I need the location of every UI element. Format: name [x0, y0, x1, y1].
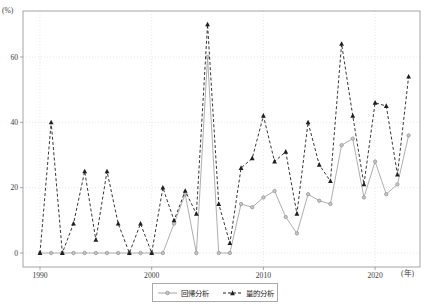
data-point-triangle: [395, 172, 400, 177]
data-point-circle: [116, 251, 119, 254]
y-tick-label: 40: [10, 118, 18, 127]
regression-line-swatch-icon: [157, 289, 178, 297]
data-point-circle: [396, 183, 399, 186]
data-point-circle: [340, 143, 343, 146]
data-point-triangle: [306, 120, 311, 125]
data-point-triangle: [406, 74, 411, 79]
data-point-triangle: [272, 159, 277, 164]
data-point-triangle: [250, 156, 255, 161]
legend-item-regression: 回帰分析: [157, 287, 209, 298]
chart-svg: 02040601990200020102020: [0, 0, 430, 308]
data-point-triangle: [183, 188, 188, 193]
data-point-circle: [373, 160, 376, 163]
data-point-triangle: [362, 182, 367, 187]
data-point-triangle: [194, 211, 199, 216]
data-point-circle: [306, 192, 309, 195]
data-point-triangle: [205, 22, 210, 27]
data-point-triangle: [295, 211, 300, 216]
data-point-triangle: [160, 185, 165, 190]
data-point-circle: [195, 251, 198, 254]
data-point-circle: [161, 251, 164, 254]
data-point-triangle: [116, 221, 121, 226]
data-point-triangle: [328, 178, 333, 183]
data-point-circle: [94, 251, 97, 254]
plot-frame: [23, 11, 420, 267]
data-point-circle: [139, 251, 142, 254]
y-tick-label: 60: [10, 53, 18, 62]
data-point-circle: [262, 196, 265, 199]
data-point-triangle: [373, 100, 378, 105]
data-point-circle: [284, 215, 287, 218]
quantitative-line-swatch-icon: [222, 289, 243, 297]
data-point-circle: [295, 232, 298, 235]
data-point-circle: [83, 251, 86, 254]
data-point-triangle: [216, 201, 221, 206]
data-point-triangle: [317, 162, 322, 167]
x-tick-label: 2000: [144, 271, 159, 280]
legend-label-quantitative: 量的分析: [246, 287, 274, 298]
x-axis-unit-label: (年): [401, 270, 414, 278]
data-point-triangle: [93, 237, 98, 242]
y-tick-label: 0: [14, 249, 18, 258]
data-point-circle: [72, 251, 75, 254]
data-point-triangle: [283, 149, 288, 154]
data-point-triangle: [71, 221, 76, 226]
data-point-triangle: [339, 41, 344, 46]
data-point-circle: [239, 202, 242, 205]
data-point-triangle: [138, 221, 143, 226]
data-point-circle: [49, 251, 52, 254]
y-tick-label: 20: [10, 183, 18, 192]
data-point-triangle: [82, 169, 87, 174]
data-point-triangle: [49, 120, 54, 125]
data-point-circle: [251, 206, 254, 209]
data-point-circle: [228, 251, 231, 254]
data-point-circle: [105, 251, 108, 254]
data-point-triangle: [261, 113, 266, 118]
data-point-circle: [329, 202, 332, 205]
x-tick-label: 2010: [256, 271, 271, 280]
data-point-circle: [407, 134, 410, 137]
x-tick-label: 1990: [32, 271, 47, 280]
data-point-circle: [351, 137, 354, 140]
data-point-triangle: [384, 103, 389, 108]
data-point-circle: [206, 55, 209, 58]
data-point-triangle: [227, 240, 232, 245]
chart-container: 02040601990200020102020 (%) (年) 回帰分析 量的分…: [0, 0, 430, 308]
data-point-circle: [217, 251, 220, 254]
data-point-triangle: [350, 113, 355, 118]
data-point-circle: [318, 199, 321, 202]
legend: 回帰分析 量的分析: [152, 283, 278, 302]
y-axis-unit-label: (%): [2, 7, 13, 15]
x-tick-label: 2020: [368, 271, 383, 280]
data-point-circle: [362, 196, 365, 199]
legend-item-quantitative: 量的分析: [222, 287, 274, 298]
data-point-circle: [273, 189, 276, 192]
data-point-triangle: [105, 169, 110, 174]
data-point-circle: [385, 192, 388, 195]
legend-label-regression: 回帰分析: [181, 287, 209, 298]
data-point-circle: [172, 222, 175, 225]
